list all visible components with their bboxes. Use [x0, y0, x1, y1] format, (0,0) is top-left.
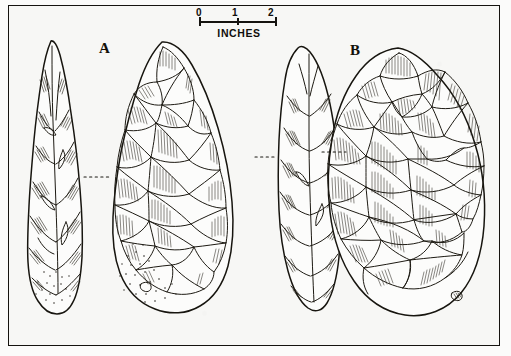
figure-label-a: A — [99, 40, 110, 57]
scale-bar: 0 1 2 INCHES — [196, 7, 280, 41]
illustration-plate: .ol{fill:#fcfcfb;stroke:#17150f;stroke-w… — [0, 0, 511, 356]
scale-tick-mark-1 — [237, 18, 239, 25]
scale-tick-mark-0 — [199, 17, 201, 26]
scale-tick-mark-2 — [275, 17, 277, 26]
scale-tick-2: 2 — [268, 7, 274, 18]
scale-caption: INCHES — [202, 27, 276, 39]
figure-a-profile-view — [28, 41, 83, 314]
figure-a-face-view — [113, 42, 233, 313]
handaxe-drawings: .ol{fill:#fcfcfb;stroke:#17150f;stroke-w… — [0, 0, 511, 356]
figure-label-b: B — [350, 42, 360, 59]
figure-b-face-view — [328, 48, 485, 316]
scale-tick-1: 1 — [232, 7, 238, 18]
